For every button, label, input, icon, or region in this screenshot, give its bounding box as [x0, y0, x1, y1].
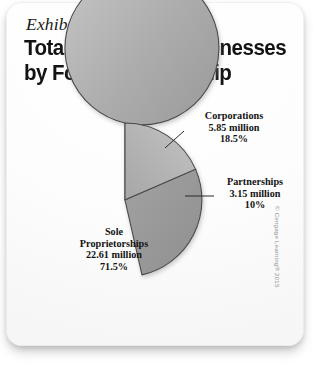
pie-label-corporations: Corporations 5.85 million 18.5%	[186, 110, 282, 145]
pie-label-sole-name-line-2: Proprietorships	[46, 238, 182, 250]
pie-label-sole-proprietorships: Sole Proprietorships 22.61 million 71.5%	[46, 226, 182, 272]
pie-label-partnerships-name: Partnerships	[212, 176, 298, 188]
pie-label-partnerships: Partnerships 3.15 million 10%	[212, 176, 298, 211]
pie-label-partnerships-value: 3.15 million	[212, 188, 298, 200]
pie-label-sole-name-line-1: Sole	[46, 226, 182, 238]
pie-label-sole-value: 22.61 million	[46, 249, 182, 261]
pie-chart: Corporations 5.85 million 18.5% Partners…	[0, 0, 316, 370]
copyright-notice: © Cengage Learning® 2015	[274, 206, 281, 316]
pie-label-corporations-name: Corporations	[186, 110, 282, 122]
pie-label-corporations-value: 5.85 million	[186, 122, 282, 134]
pie-label-sole-percent: 71.5%	[46, 261, 182, 273]
pie-label-corporations-percent: 18.5%	[186, 133, 282, 145]
pie-label-partnerships-percent: 10%	[212, 199, 298, 211]
